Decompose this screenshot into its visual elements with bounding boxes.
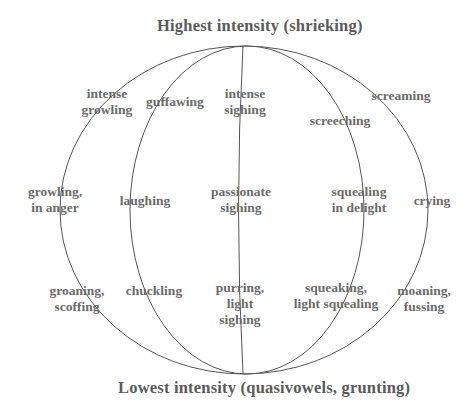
label-screaming: screaming bbox=[372, 88, 431, 104]
bottom-label: Lowest intensity (quasivowels, grunting) bbox=[118, 378, 410, 398]
label-squeaking: squeaking, light squealing bbox=[294, 280, 378, 312]
label-intense-growling: intense growling bbox=[82, 86, 133, 118]
label-screeching: screeching bbox=[310, 113, 371, 129]
label-passionate-sighing: passionate sighing bbox=[211, 184, 271, 216]
label-crying: crying bbox=[414, 193, 451, 209]
label-moaning-fussing: moaning, fussing bbox=[397, 283, 451, 315]
top-label: Highest intensity (shrieking) bbox=[157, 16, 363, 36]
label-purring: purring, light sighing bbox=[216, 280, 264, 328]
intensity-diagram: Highest intensity (shrieking) Lowest int… bbox=[0, 0, 476, 402]
label-intense-sighing: intense sighing bbox=[224, 86, 265, 118]
label-guffawing: guffawing bbox=[146, 94, 204, 110]
label-squealing-delight: squealing in delight bbox=[332, 184, 387, 216]
label-laughing: laughing bbox=[120, 193, 170, 209]
label-chuckling: chuckling bbox=[126, 283, 182, 299]
label-growling-anger: growling, in anger bbox=[28, 184, 82, 216]
label-groaning-scoffing: groaning, scoffing bbox=[50, 283, 105, 315]
